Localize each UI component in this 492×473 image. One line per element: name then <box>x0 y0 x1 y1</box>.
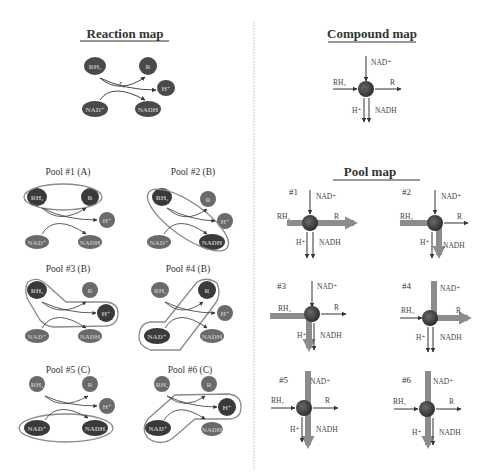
svg-text:NADH: NADH <box>443 241 465 250</box>
svg-text:NAD⁺: NAD⁺ <box>149 425 168 433</box>
svg-text:H⁺: H⁺ <box>101 310 110 318</box>
svg-text:H⁺: H⁺ <box>102 403 111 411</box>
svg-text:NADH: NADH <box>138 106 159 114</box>
svg-text:NADH: NADH <box>85 425 106 433</box>
svg-text:RH₂: RH₂ <box>271 396 284 405</box>
svg-text:RH₂: RH₂ <box>401 306 414 315</box>
svg-text:RH₂: RH₂ <box>393 397 406 406</box>
svg-text:Pool #2 (B): Pool #2 (B) <box>171 167 215 178</box>
svg-text:NAD⁺: NAD⁺ <box>433 377 453 386</box>
svg-text:RH₂: RH₂ <box>400 212 413 221</box>
svg-text:Pool #3 (B): Pool #3 (B) <box>46 264 90 275</box>
svg-text:RH₂: RH₂ <box>31 381 44 389</box>
svg-text:NADH: NADH <box>440 333 462 342</box>
svg-text:RH₂: RH₂ <box>156 381 169 389</box>
svg-text:NADH: NADH <box>319 238 341 247</box>
svg-text:RH₂: RH₂ <box>278 304 291 313</box>
svg-text:R: R <box>334 212 339 221</box>
reaction-map: Reaction map RH₂ R H⁺ NAD⁺ NADH r₁ <box>80 26 175 117</box>
svg-text:H⁺: H⁺ <box>420 238 429 247</box>
reaction-map-title: Reaction map <box>87 26 164 41</box>
pool-map-panel-1: #1 NAD⁺ RH₂ R H⁺ NADH <box>277 187 354 258</box>
svg-text:NAD⁺: NAD⁺ <box>310 377 330 386</box>
svg-text:NAD⁺: NAD⁺ <box>150 239 169 247</box>
svg-text:r₁: r₁ <box>363 85 369 94</box>
svg-text:NADH: NADH <box>375 106 397 115</box>
svg-text:NAD⁺: NAD⁺ <box>86 106 105 114</box>
diagram-canvas: Reaction map RH₂ R H⁺ NAD⁺ NADH r₁ Compo… <box>0 0 492 473</box>
svg-text:Pool #5 (C): Pool #5 (C) <box>46 365 90 376</box>
svg-text:NAD⁺: NAD⁺ <box>28 333 47 341</box>
svg-text:H⁺: H⁺ <box>161 85 170 93</box>
pool-map-panel-4: #4 NAD⁺ RH₂ R H⁺ NADH <box>400 281 468 352</box>
svg-text:Pool #1 (A): Pool #1 (A) <box>46 167 91 178</box>
compound-map-title: Compound map <box>327 26 417 41</box>
svg-text:R: R <box>457 212 462 221</box>
svg-text:NADH: NADH <box>439 428 461 437</box>
svg-text:H⁺: H⁺ <box>220 218 229 226</box>
svg-text:#1: #1 <box>289 187 298 197</box>
svg-text:NAD⁺: NAD⁺ <box>28 239 47 247</box>
svg-text:RH₂: RH₂ <box>277 212 290 221</box>
svg-text:Pool #4 (B): Pool #4 (B) <box>166 264 210 275</box>
svg-text:NADH: NADH <box>202 239 223 247</box>
pool-2: Pool #2 (B) RH₂ R H⁺ NAD⁺ NADH <box>139 167 237 261</box>
svg-text:RH₂: RH₂ <box>333 78 346 87</box>
svg-text:#4: #4 <box>402 281 412 291</box>
svg-text:#6: #6 <box>402 375 412 385</box>
svg-text:RH₂: RH₂ <box>31 287 44 295</box>
svg-text:NADH: NADH <box>80 239 101 247</box>
pool-6: Pool #6 (C) RH₂ R H⁺ NAD⁺ NADH <box>144 365 241 443</box>
pool-1: Pool #1 (A) RH₂ R H⁺ NAD⁺ NADH <box>24 167 115 249</box>
svg-text:NAD⁺: NAD⁺ <box>28 425 47 433</box>
svg-text:R: R <box>390 78 395 87</box>
svg-text:NADH: NADH <box>316 425 338 434</box>
svg-text:H⁺: H⁺ <box>290 425 299 434</box>
svg-text:#2: #2 <box>402 187 411 197</box>
svg-text:RH₂: RH₂ <box>156 194 169 202</box>
svg-text:RH₂: RH₂ <box>154 287 167 295</box>
pool-map-panel-2: #2 NAD⁺ RH₂ R H⁺ NADH <box>400 187 468 258</box>
svg-text:Pool #6 (C): Pool #6 (C) <box>168 365 212 376</box>
pool-map-panel-6: #6 NAD⁺ RH₂ R H⁺ NADH <box>393 371 461 445</box>
svg-text:R: R <box>456 306 461 315</box>
svg-text:NADH: NADH <box>202 333 223 341</box>
svg-text:NADH: NADH <box>320 331 342 340</box>
pool-map-title: Pool map <box>344 164 396 179</box>
pool-map-panel-3: #3 NAD⁺ RH₂ R H⁺ NADH <box>270 281 346 350</box>
svg-text:H⁺: H⁺ <box>352 106 361 115</box>
svg-text:H⁺: H⁺ <box>297 331 306 340</box>
svg-text:RH₂: RH₂ <box>89 63 102 71</box>
compound-map: Compound map NAD⁺ RH₂ r₁ R H⁺ NADH <box>327 26 417 122</box>
svg-text:H⁺: H⁺ <box>416 333 425 342</box>
svg-text:H⁺: H⁺ <box>296 238 305 247</box>
svg-text:H⁺: H⁺ <box>102 217 111 225</box>
svg-text:NAD⁺: NAD⁺ <box>440 284 460 293</box>
svg-text:NAD⁺: NAD⁺ <box>441 192 461 201</box>
svg-text:RH₂: RH₂ <box>31 194 44 202</box>
svg-text:H⁺: H⁺ <box>220 310 229 318</box>
svg-text:R: R <box>334 303 339 312</box>
svg-text:NAD⁺: NAD⁺ <box>316 192 336 201</box>
svg-text:R: R <box>325 396 330 405</box>
svg-text:H⁺: H⁺ <box>412 428 421 437</box>
svg-text:R: R <box>449 397 454 406</box>
svg-text:NAD⁺: NAD⁺ <box>317 282 337 291</box>
pool-5: Pool #5 (C) RH₂ R H⁺ NAD⁺ NADH <box>19 365 115 442</box>
svg-text:NAD⁺: NAD⁺ <box>148 333 167 341</box>
pool-3: Pool #3 (B) RH₂ R H⁺ NAD⁺ NADH <box>25 264 118 343</box>
svg-text:H⁺: H⁺ <box>222 404 231 412</box>
svg-text:NADH: NADH <box>202 426 223 434</box>
pool-map-panel-5: #5 NAD⁺ RH₂ R H⁺ NADH <box>271 371 338 445</box>
svg-text:NAD⁺: NAD⁺ <box>371 58 391 67</box>
svg-text:#5: #5 <box>279 375 289 385</box>
svg-text:#3: #3 <box>277 281 287 291</box>
pool-4: Pool #4 (B) RH₂ R H⁺ NAD⁺ NADH <box>139 264 233 350</box>
svg-text:NADH: NADH <box>80 333 101 341</box>
